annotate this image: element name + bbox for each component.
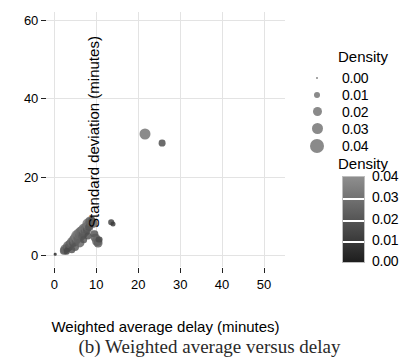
y-axis-title: Standard deviation (minutes)	[85, 36, 102, 228]
y-tick-label: 20	[24, 169, 38, 184]
size-legend-row: 0.03	[300, 120, 419, 137]
y-tick-mark	[41, 20, 46, 21]
size-legend-dot	[316, 77, 318, 79]
y-tick-label: 0	[31, 248, 38, 263]
size-legend-label: 0.02	[334, 104, 368, 120]
size-legend-label: 0.00	[334, 70, 368, 86]
x-tick-mark	[96, 268, 97, 273]
size-legend-row: 0.02	[300, 103, 419, 120]
y-tick-mark	[41, 98, 46, 99]
x-tick-label: 40	[215, 277, 229, 292]
size-legend-label: 0.01	[334, 87, 368, 103]
x-tick-label: 50	[257, 277, 271, 292]
gridline-vertical	[222, 12, 223, 267]
size-legend: Density 0.000.010.020.030.04	[300, 48, 419, 154]
figure-caption: (b) Weighted average versus delay	[0, 336, 419, 358]
gridline-horizontal	[46, 177, 285, 178]
x-tick-mark	[222, 268, 223, 273]
size-legend-dot	[310, 139, 324, 153]
colorbar-label: 0.03	[372, 189, 398, 205]
color-legend: Density 0.040.030.020.010.00	[300, 155, 419, 263]
x-tick-mark	[54, 268, 55, 273]
colorbar-gradient	[342, 176, 365, 263]
colorbar-tick	[343, 241, 364, 243]
gridline-horizontal	[46, 255, 285, 256]
gridline-vertical	[138, 12, 139, 267]
y-tick-label: 40	[24, 91, 38, 106]
x-tick-label: 0	[51, 277, 58, 292]
colorbar-label: 0.01	[372, 232, 398, 248]
size-legend-row: 0.01	[300, 86, 419, 103]
y-tick-mark	[41, 177, 46, 178]
scatter-point	[96, 236, 103, 243]
size-legend-label: 0.03	[334, 121, 368, 137]
size-legend-title: Density	[300, 48, 419, 65]
gridline-vertical	[54, 12, 55, 267]
scatter-point	[54, 253, 57, 256]
size-legend-row: 0.00	[300, 69, 419, 86]
scatter-point	[110, 222, 115, 227]
colorbar-wrap: 0.040.030.020.010.00	[300, 176, 419, 263]
colorbar-label: 0.02	[372, 211, 398, 227]
x-tick-label: 20	[131, 277, 145, 292]
x-tick-mark	[180, 268, 181, 273]
colorbar-tick	[343, 198, 364, 200]
y-tick-label: 60	[24, 12, 38, 27]
x-tick-label: 10	[89, 277, 103, 292]
size-legend-dot	[314, 92, 320, 98]
scatter-point	[64, 248, 71, 255]
scatter-point	[84, 233, 91, 240]
colorbar-label: 0.04	[372, 168, 398, 184]
gridline-horizontal	[46, 98, 285, 99]
size-legend-dot-swatch	[300, 92, 334, 98]
size-legend-dot-swatch	[300, 107, 334, 116]
scatter-point	[139, 128, 150, 139]
x-tick-mark	[264, 268, 265, 273]
size-legend-dot-swatch	[300, 139, 334, 153]
y-tick-mark	[41, 255, 46, 256]
gridline-vertical	[180, 12, 181, 267]
size-legend-rows: 0.000.010.020.030.04	[300, 69, 419, 154]
size-legend-dot	[312, 123, 323, 134]
size-legend-dot-swatch	[300, 123, 334, 134]
size-legend-row: 0.04	[300, 137, 419, 154]
x-tick-label: 30	[173, 277, 187, 292]
x-axis-title: Weighted average delay (minutes)	[46, 318, 285, 335]
x-tick-mark	[138, 268, 139, 273]
color-legend-title: Density	[300, 155, 419, 172]
size-legend-dot	[313, 107, 322, 116]
gridline-horizontal	[46, 20, 285, 21]
colorbar-tick	[343, 220, 364, 222]
size-legend-label: 0.04	[334, 138, 368, 154]
colorbar-label: 0.00	[372, 253, 398, 269]
scatter-point	[158, 140, 165, 147]
plot-area	[46, 12, 285, 267]
size-legend-dot-swatch	[300, 77, 334, 79]
gridline-vertical	[264, 12, 265, 267]
